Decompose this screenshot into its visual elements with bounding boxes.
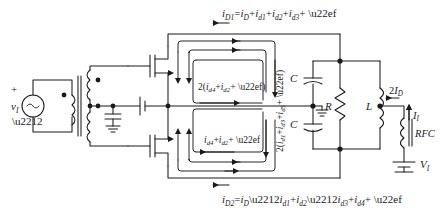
- equation-top: iD1=iD+id1+id2+id3+ \u22ef: [222, 7, 337, 22]
- source-plus: +: [11, 83, 17, 95]
- loop-label-odd-vertical: 2(id1+id3+id5+ \u22ef): [275, 70, 286, 152]
- schematic-svg: iD1=iD+id1+id2+id3+ \u22ef iD2=iD\u2212i…: [0, 0, 448, 213]
- bypass-capacitor: [105, 104, 121, 132]
- mosfet-lower: [128, 104, 170, 166]
- transformer-core: [78, 76, 81, 136]
- circuit-diagram-canvas: iD1=iD+id1+id2+id3+ \u22ef iD2=iD\u2212i…: [0, 0, 448, 213]
- capacitor-c-bottom-label: C: [290, 118, 298, 130]
- drain-current-label: 2ID: [389, 85, 404, 98]
- inductor-l-label: L: [365, 100, 372, 112]
- capacitor-c-bottom: [304, 61, 340, 149]
- gate-bias-battery: [113, 97, 168, 115]
- resistor-r-label: R: [324, 100, 332, 112]
- source-label: vI: [11, 100, 19, 115]
- rfc-choke: [380, 106, 412, 162]
- inductor-l: [340, 61, 384, 149]
- source-minus: \u2212: [12, 115, 43, 127]
- rfc-label: RFC: [414, 128, 436, 139]
- mosfet-upper: [128, 46, 168, 106]
- resistor-r: [335, 58, 345, 151]
- loop-label-even-upper: 2(id4+id2+ \u22ef): [198, 82, 265, 93]
- supply-battery: [393, 162, 415, 172]
- input-current-label: II: [412, 110, 420, 123]
- supply-label: VI: [420, 158, 430, 173]
- loop-label-even-lower: id4+id2+ \u22ef: [204, 135, 261, 146]
- transformer-primary: [62, 93, 75, 125]
- equation-bottom: iD2=iD\u2212id1+id2\u2212id3+id4+ \u22ef: [222, 193, 402, 208]
- capacitor-c-top-label: C: [290, 72, 298, 84]
